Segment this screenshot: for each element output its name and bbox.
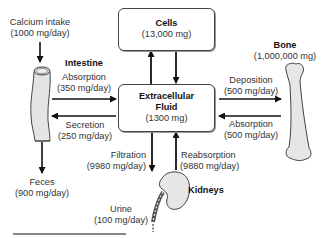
intestine-label: Intestine — [65, 58, 103, 69]
urine-label: Urine — [110, 204, 132, 215]
bone-absorption-label: Absorption — [229, 119, 273, 130]
ecf-amount: (1300 mg) — [146, 113, 188, 123]
ecf-box: Extracellular Fluid (1300 mg) — [118, 84, 215, 132]
cells-amount: (13,000 mg) — [142, 29, 192, 39]
reabsorption-label: Reabsorption — [181, 150, 236, 161]
ecf-title-line2: Fluid — [119, 102, 214, 113]
intestinal-absorption-label: Absorption — [62, 72, 106, 83]
intake-rate: (1000 mg/day) — [10, 28, 69, 39]
intestinal-absorption-rate: (350 mg/day) — [57, 83, 111, 94]
bone-icon — [286, 63, 311, 160]
filtration-label: Filtration — [111, 150, 146, 161]
intestine-icon — [31, 67, 50, 141]
cells-title: Cells — [119, 18, 214, 29]
kidney-icon — [153, 172, 190, 232]
ecf-title-line1: Extracellular — [119, 91, 214, 102]
bone-label: Bone — [274, 40, 297, 51]
secretion-label: Secretion — [66, 120, 105, 131]
filtration-rate: (9980 mg/day) — [87, 161, 146, 172]
urine-rate: (100 mg/day) — [94, 215, 148, 226]
intake-label: Calcium intake — [10, 17, 70, 28]
feces-label: Feces — [29, 177, 54, 188]
feces-rate: (900 mg/day) — [15, 188, 69, 199]
kidneys-label: Kidneys — [188, 185, 224, 196]
bone-amount: (1,000,000 mg) — [254, 51, 316, 62]
bone-absorption-rate: (500 mg/day) — [224, 130, 278, 141]
deposition-rate: (500 mg/day) — [224, 86, 278, 97]
cells-box: Cells (13,000 mg) — [118, 8, 215, 51]
deposition-label: Deposition — [229, 75, 272, 86]
reabsorption-rate: (9880 mg/day) — [180, 161, 239, 172]
secretion-rate: (250 mg/day) — [58, 131, 112, 142]
